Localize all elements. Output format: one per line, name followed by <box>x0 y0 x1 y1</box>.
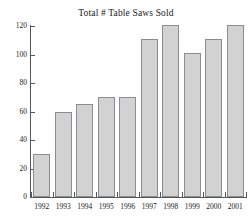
bar <box>227 25 244 197</box>
bar <box>119 97 136 197</box>
bar <box>162 25 179 197</box>
x-axis-tick <box>74 192 75 197</box>
x-axis-tick-label: 1996 <box>117 203 139 211</box>
x-axis-tick-label: 1992 <box>31 203 53 211</box>
x-axis-tick <box>31 192 32 197</box>
x-axis-tick-label: 1993 <box>53 203 75 211</box>
x-axis-tick <box>246 192 247 197</box>
x-axis-tick-label: 2001 <box>225 203 247 211</box>
plot-area <box>31 26 246 197</box>
y-axis-tick-label: 40 <box>0 136 27 144</box>
bar-chart: Total # Table Saws Sold 020406080100120 … <box>0 0 252 224</box>
x-axis-tick <box>203 192 204 197</box>
y-axis-tick-label: 20 <box>0 165 27 173</box>
x-axis-tick-label: 1997 <box>139 203 161 211</box>
x-axis-line <box>30 197 247 198</box>
x-axis-tick-label: 1999 <box>182 203 204 211</box>
x-axis-tick-label: 2000 <box>203 203 225 211</box>
x-axis-tick <box>225 192 226 197</box>
bar <box>33 154 50 197</box>
bar <box>184 53 201 197</box>
x-axis-tick <box>160 192 161 197</box>
x-axis-tick-label: 1998 <box>160 203 182 211</box>
y-axis-tick-label: 120 <box>0 22 27 30</box>
y-axis-tick-label: 60 <box>0 108 27 116</box>
bar <box>55 112 72 198</box>
bar <box>98 97 115 197</box>
chart-title: Total # Table Saws Sold <box>0 8 252 18</box>
y-axis-tick-label: 80 <box>0 79 27 87</box>
x-axis-tick <box>53 192 54 197</box>
x-axis-tick <box>139 192 140 197</box>
y-axis-tick-label: 0 <box>0 193 27 201</box>
bar <box>141 39 158 197</box>
x-axis-tick <box>117 192 118 197</box>
x-axis-tick <box>96 192 97 197</box>
x-axis-tick-label: 1995 <box>96 203 118 211</box>
y-axis-tick <box>31 197 35 198</box>
bar <box>205 39 222 197</box>
x-axis-tick-label: 1994 <box>74 203 96 211</box>
bar <box>76 104 93 197</box>
y-axis-tick-label: 100 <box>0 51 27 59</box>
x-axis-tick <box>182 192 183 197</box>
